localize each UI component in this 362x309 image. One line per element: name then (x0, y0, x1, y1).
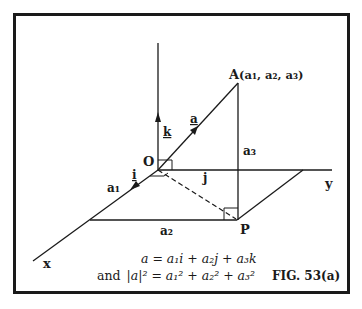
k-arrow-icon (155, 112, 161, 122)
a3-label: a₃ (243, 144, 256, 158)
y-axis-label: y (324, 176, 333, 191)
point-a-label: A(a₁, a₂, a₃) (228, 67, 303, 82)
vector-diagram: A(a₁, a₂, a₃) a k a₃ O i j a₁ y a₂ P x a… (0, 0, 362, 309)
point-p-label: P (240, 222, 250, 237)
a1-label: a₁ (107, 181, 120, 195)
equation-vector-a: a = a₁i + a₂j + a₃k (141, 251, 257, 266)
a2-label: a₂ (160, 224, 173, 238)
line-p-to-y (237, 170, 303, 220)
vector-a-label: a (190, 112, 198, 126)
figure-caption: FIG. 53(a) (272, 269, 340, 283)
x-axis-label: x (43, 256, 51, 271)
i-label: i (132, 168, 137, 182)
x-axis (33, 170, 158, 261)
i-arrow-icon (130, 181, 140, 190)
right-angle-p (224, 208, 238, 220)
j-label: j (202, 171, 207, 185)
equation-magnitude: and|a|² = a₁² + a₂² + a₃² (97, 268, 255, 283)
k-label: k (163, 125, 172, 139)
origin-label: O (143, 154, 154, 169)
